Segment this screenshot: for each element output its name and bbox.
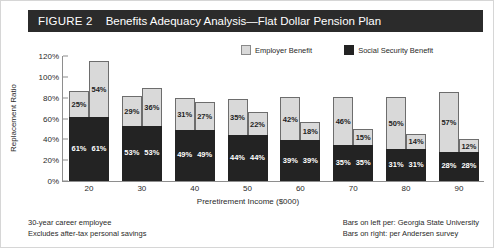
x-axis-tick-label: 90: [439, 184, 479, 196]
bar-segment-social-security-benefit: 35%: [353, 145, 373, 181]
x-axis-tick-label: 80: [386, 184, 426, 196]
bar-segment-social-security-benefit: 39%: [280, 140, 300, 181]
stacked-bar-right: 27%49%: [195, 102, 215, 181]
bar-group: 25%61%54%61%: [69, 56, 109, 181]
stacked-bar-right: 14%31%: [406, 134, 426, 181]
bar-segment-social-security-benefit: 53%: [142, 126, 162, 181]
footnote-right-line-1: Bars on left per: Georgia State Universi…: [343, 217, 479, 228]
bar-segment-employer-benefit: 22%: [248, 112, 268, 135]
bar-group: 50%31%14%31%: [386, 56, 426, 181]
bar-segment-employer-benefit: 27%: [195, 102, 215, 130]
bar-group: 46%35%15%35%: [333, 56, 373, 181]
bar-group: 31%49%27%49%: [175, 56, 215, 181]
x-axis-tick-label: 20: [69, 184, 109, 196]
bar-segment-employer-benefit: 15%: [353, 129, 373, 145]
x-axis-tick-label: 40: [175, 184, 215, 196]
bar-segment-social-security-benefit: 28%: [459, 152, 479, 181]
bar-groups: 25%61%54%61%29%53%36%53%31%49%27%49%35%4…: [63, 56, 483, 181]
y-axis-tick-label: 20%: [43, 156, 63, 165]
y-axis-tick-label: 100%: [39, 72, 63, 81]
stacked-bar-left: 31%49%: [175, 98, 195, 181]
figure-number: FIGURE 2: [38, 15, 93, 27]
plot-area: 0%20%40%60%80%100%120% 25%61%54%61%29%53…: [63, 56, 483, 181]
y-axis-title: Replacement Ratio: [9, 84, 18, 152]
bar-segment-social-security-benefit: 28%: [439, 152, 459, 181]
stacked-bar-left: 25%61%: [69, 91, 89, 181]
footnote-right: Bars on left per: Georgia State Universi…: [343, 217, 479, 239]
bar-segment-social-security-benefit: 39%: [300, 140, 320, 181]
x-axis-tick-label: 30: [122, 184, 162, 196]
y-axis-tick: 60%: [43, 114, 63, 123]
x-axis-tick-label: 50: [228, 184, 268, 196]
bar-segment-social-security-benefit: 53%: [122, 126, 142, 181]
y-axis-tick: 120%: [39, 52, 63, 61]
footnote-right-line-2: Bars on right: per Andersen survey: [343, 228, 479, 239]
legend-item-social-security-benefit: Social Security Benefit: [344, 45, 433, 55]
y-axis-tick-label: 0%: [47, 177, 63, 186]
y-axis-tick: 20%: [43, 156, 63, 165]
stacked-bar-left: 29%53%: [122, 96, 142, 181]
footnote-left-line-2: Excludes after-tax personal savings: [28, 228, 146, 239]
bar-segment-employer-benefit: 57%: [439, 92, 459, 151]
y-axis-tick-label: 40%: [43, 135, 63, 144]
stacked-bar-right: 22%44%: [248, 112, 268, 181]
stacked-bar-left: 50%31%: [386, 97, 406, 181]
y-axis-tick-label: 80%: [43, 93, 63, 102]
y-axis-tick: 40%: [43, 135, 63, 144]
bar-segment-social-security-benefit: 31%: [386, 149, 406, 181]
stacked-bar-right: 12%28%: [459, 139, 479, 181]
stacked-bar-left: 57%28%: [439, 92, 459, 181]
bar-segment-employer-benefit: 36%: [142, 88, 162, 126]
x-axis-tick-label: 60: [280, 184, 320, 196]
bar-segment-employer-benefit: 29%: [122, 96, 142, 126]
bar-segment-employer-benefit: 31%: [175, 98, 195, 130]
y-axis-tick-label: 60%: [43, 114, 63, 123]
footnote-left: 30-year career employee Excludes after-t…: [28, 217, 146, 239]
legend-label-employer-benefit: Employer Benefit: [255, 46, 312, 55]
stacked-bar-right: 54%61%: [89, 61, 109, 181]
bar-segment-employer-benefit: 35%: [228, 99, 248, 135]
x-axis-line: [62, 181, 484, 182]
bar-segment-employer-benefit: 12%: [459, 139, 479, 152]
figure-title-bar: FIGURE 2 Benefits Adequacy Analysis—Flat…: [28, 10, 483, 32]
bar-segment-employer-benefit: 42%: [280, 97, 300, 141]
y-axis-tick: 80%: [43, 93, 63, 102]
bar-segment-social-security-benefit: 44%: [228, 135, 248, 181]
bar-segment-social-security-benefit: 35%: [333, 145, 353, 181]
legend-label-social-security-benefit: Social Security Benefit: [358, 46, 433, 55]
page-title: Benefits Adequacy Analysis—Flat Dollar P…: [106, 15, 382, 27]
stacked-bar-right: 18%39%: [300, 122, 320, 181]
bar-segment-social-security-benefit: 31%: [406, 149, 426, 181]
bar-group: 29%53%36%53%: [122, 56, 162, 181]
bar-group: 35%44%22%44%: [228, 56, 268, 181]
bar-segment-social-security-benefit: 49%: [175, 130, 195, 181]
stacked-bar-left: 46%35%: [333, 97, 353, 181]
y-axis-tick-label: 120%: [39, 52, 63, 61]
bar-segment-employer-benefit: 14%: [406, 134, 426, 149]
y-axis-tick: 100%: [39, 72, 63, 81]
y-axis-tick: 0%: [47, 177, 63, 186]
bar-segment-social-security-benefit: 61%: [89, 117, 109, 181]
bar-group: 57%28%12%28%: [439, 56, 479, 181]
chart-legend: Employer Benefit Social Security Benefit: [241, 45, 433, 55]
bar-segment-employer-benefit: 54%: [89, 61, 109, 117]
employer-benefit-swatch-icon: [241, 45, 251, 55]
stacked-bar-right: 36%53%: [142, 88, 162, 181]
bar-group: 42%39%18%39%: [280, 56, 320, 181]
bar-segment-social-security-benefit: 49%: [195, 130, 215, 181]
x-axis-title: Preretirement Income ($000): [1, 197, 494, 206]
bar-segment-social-security-benefit: 61%: [69, 117, 89, 181]
bar-segment-employer-benefit: 25%: [69, 91, 89, 117]
stacked-bar-left: 42%39%: [280, 97, 300, 181]
bar-segment-employer-benefit: 46%: [333, 97, 353, 145]
stacked-bar-left: 35%44%: [228, 99, 248, 181]
figure-container: FIGURE 2 Benefits Adequacy Analysis—Flat…: [0, 0, 494, 248]
x-axis-tick-labels: 2030405060708090: [63, 184, 483, 196]
stacked-bar-right: 15%35%: [353, 129, 373, 181]
social-security-benefit-swatch-icon: [344, 45, 354, 55]
bar-segment-social-security-benefit: 44%: [248, 135, 268, 181]
footnote-left-line-1: 30-year career employee: [28, 217, 146, 228]
bar-segment-employer-benefit: 50%: [386, 97, 406, 149]
x-axis-tick-label: 70: [333, 184, 373, 196]
bar-segment-employer-benefit: 18%: [300, 122, 320, 141]
